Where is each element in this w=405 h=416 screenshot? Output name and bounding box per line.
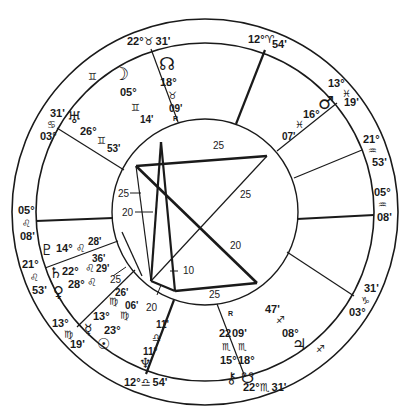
north-node-icon: ☊ [159, 53, 175, 74]
svg-text:22: 22 [219, 327, 231, 339]
chiron-icon: ⚷ [226, 369, 237, 387]
svg-text:21°: 21° [363, 133, 380, 145]
svg-text:12°♈: 12°♈ [248, 33, 275, 46]
svg-text:09': 09' [232, 327, 247, 339]
svg-text:05°: 05° [374, 186, 391, 198]
south-node-icon: ☋ [241, 369, 254, 387]
svg-text:22°: 22° [62, 265, 79, 277]
svg-text:08°: 08° [282, 327, 299, 339]
svg-text:47': 47' [265, 303, 280, 315]
svg-text:14': 14' [140, 114, 154, 125]
aspect-orb-label: 20 [122, 207, 134, 218]
svg-text:08': 08' [20, 230, 35, 242]
svg-text:54': 54' [272, 38, 287, 50]
svg-text:26°: 26° [80, 125, 97, 137]
svg-text:31': 31' [50, 107, 65, 119]
svg-text:53': 53' [107, 143, 121, 154]
venus-icon: ♀ [53, 283, 64, 301]
svg-text:29': 29' [96, 263, 110, 274]
aspect-line [136, 156, 267, 166]
svg-text:♎: ♎ [152, 332, 161, 343]
svg-text:13°: 13° [52, 317, 69, 329]
planet-sun: ☉ 23° ♍ 06' [97, 300, 139, 353]
svg-text:R: R [173, 115, 178, 122]
aspect-orb-label: 25 [213, 140, 225, 151]
svg-text:19': 19' [344, 96, 359, 108]
aspect-orb-label: 25 [118, 188, 130, 199]
saturn-icon: ♄ [49, 264, 62, 282]
svg-text:11': 11' [156, 319, 169, 330]
svg-text:19': 19' [70, 338, 85, 350]
svg-text:♌: ♌ [30, 272, 39, 283]
aspect-orb-label: 10 [183, 265, 195, 276]
aspect-orb-label: 20 [146, 302, 158, 313]
svg-text:18°: 18° [160, 76, 177, 88]
svg-text:♏: ♏ [222, 341, 231, 352]
cusp-line-asc [297, 215, 374, 219]
svg-text:03°: 03° [40, 130, 57, 142]
svg-text:12°♎54': 12°♎54' [124, 376, 168, 389]
svg-text:♍: ♍ [120, 310, 129, 321]
planet-north-node: ☊ 18° ♉ 09' R [159, 53, 183, 122]
svg-text:♌: ♌ [22, 218, 31, 229]
svg-text:♋: ♋ [47, 119, 56, 130]
aspect-orb-label: 25 [240, 189, 252, 200]
planet-moon: ☽ 05° ♊ 14' [113, 63, 154, 125]
moon-icon: ☽ [113, 63, 129, 84]
svg-text:23°: 23° [104, 324, 121, 336]
svg-text:07': 07' [282, 131, 296, 142]
svg-text:09': 09' [169, 103, 183, 114]
svg-text:15°: 15° [220, 354, 237, 366]
svg-text:♉: ♉ [168, 90, 177, 101]
aspect-labels: 25 25 25 20 20 10 25 20 25 [110, 140, 252, 313]
svg-text:♑: ♑ [361, 295, 370, 306]
cusp-line-mc [236, 50, 265, 124]
svg-text:05°: 05° [120, 86, 137, 98]
svg-text:♊: ♊ [131, 102, 140, 113]
svg-text:03°: 03° [349, 306, 366, 318]
svg-text:22°♉31': 22°♉31' [127, 35, 171, 48]
sun-icon: ☉ [97, 335, 110, 353]
svg-text:13°: 13° [93, 310, 110, 322]
svg-text:28°: 28° [68, 278, 85, 290]
svg-text:18°: 18° [238, 354, 255, 366]
svg-text:53': 53' [372, 156, 387, 168]
svg-text:♊: ♊ [97, 135, 106, 146]
svg-text:♒: ♒ [368, 145, 377, 156]
svg-text:53': 53' [32, 284, 47, 296]
svg-text:16°: 16° [303, 108, 320, 120]
aspect-orb-label: 20 [230, 240, 242, 251]
planet-mars: ♂ 16° ♓ 07' [282, 92, 334, 142]
svg-text:11°: 11° [143, 346, 158, 357]
cusp-line-dsc [36, 218, 113, 221]
cusp-line-2 [287, 252, 354, 296]
svg-text:28': 28' [88, 236, 102, 247]
aspect-line [136, 166, 151, 281]
neptune-icon: ♆ [139, 355, 152, 371]
mars-icon: ♂ [318, 92, 334, 113]
svg-text:♐: ♐ [276, 314, 285, 325]
svg-text:14°♌: 14°♌ [56, 242, 86, 255]
svg-text:♒: ♒ [378, 199, 387, 210]
svg-text:♌: ♌ [87, 276, 97, 289]
svg-text:♏: ♏ [238, 341, 247, 352]
cusp-labels: 22°♉31' 12°♈ 54' 13° ♓ 19' 21° ♒ 53' 05°… [18, 33, 392, 394]
svg-text:06': 06' [125, 300, 139, 311]
svg-text:05°: 05° [18, 204, 35, 216]
svg-text:26': 26' [115, 287, 129, 298]
pluto-icon: ♇ [40, 241, 53, 259]
svg-text:21°: 21° [22, 258, 39, 270]
ring-sign-sagittarius: ♐ [316, 343, 325, 354]
mercury-icon: ☿ [84, 321, 93, 337]
cusp-line-12 [294, 150, 362, 178]
aspect-orb-label: 25 [110, 274, 122, 285]
chart-wheel: 25 25 25 20 20 10 25 20 25 22°♉31' 12°♈ … [0, 0, 405, 416]
ring-sign-gemini: ♊ [88, 71, 97, 82]
planet-neptune: ♆ 11° ♎ 11' [139, 319, 169, 371]
svg-text:R: R [228, 310, 233, 317]
aspect-orb-label: 25 [209, 289, 221, 300]
planet-uranus: ♅ 26° ♊ 53' [67, 108, 121, 154]
svg-text:31': 31' [364, 282, 379, 294]
svg-text:♓: ♓ [295, 119, 304, 130]
planet-jupiter: ♃ 08° ♐ 47' [265, 303, 306, 354]
